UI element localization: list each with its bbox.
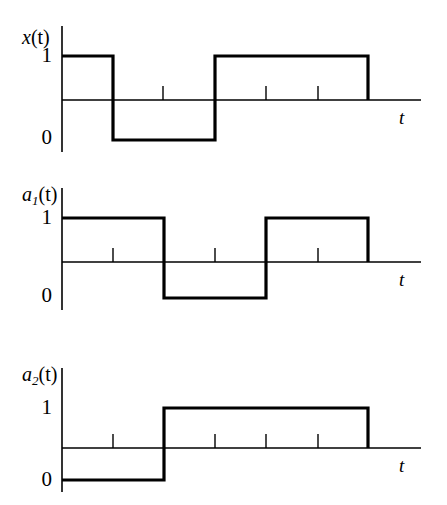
y-label-low-a2: 0: [30, 469, 52, 490]
waveform-x: [62, 56, 368, 140]
plot-a2-of-t-canvas: [0, 348, 447, 505]
x-axis-label-a1: t: [399, 270, 404, 289]
plot-a1-of-t: a1(t) 1 0 t: [0, 175, 447, 348]
y-label-high-a1: 1: [30, 207, 52, 228]
signal-label-a1-text: a: [22, 183, 32, 205]
signal-label-a2-sub: 2: [32, 373, 39, 388]
x-axis-label-a2: t: [399, 456, 404, 475]
plot-a1-of-t-canvas: [0, 175, 447, 348]
plot-x-of-t-canvas: [0, 0, 447, 175]
plot-x-of-t: x(t) 1 0 t: [0, 0, 447, 175]
y-label-high-a2: 1: [30, 397, 52, 418]
signal-label-a1: a1(t): [22, 184, 57, 204]
y-label-low-a1: 0: [30, 285, 52, 306]
signal-label-a2: a2(t): [22, 364, 57, 384]
x-axis-label-x: t: [399, 108, 404, 127]
plot-a2-of-t: a2(t) 1 0 t: [0, 348, 447, 505]
signal-label-a2-arg: (t): [39, 363, 58, 385]
signal-label-a1-arg: (t): [39, 183, 58, 205]
y-label-high-x: 1: [30, 45, 52, 66]
y-label-low-x: 0: [30, 127, 52, 148]
signal-timing-figure: x(t) 1 0 t a1(t) 1 0 t: [0, 0, 447, 505]
signal-label-a2-text: a: [22, 363, 32, 385]
signal-label-a1-sub: 1: [32, 193, 39, 208]
